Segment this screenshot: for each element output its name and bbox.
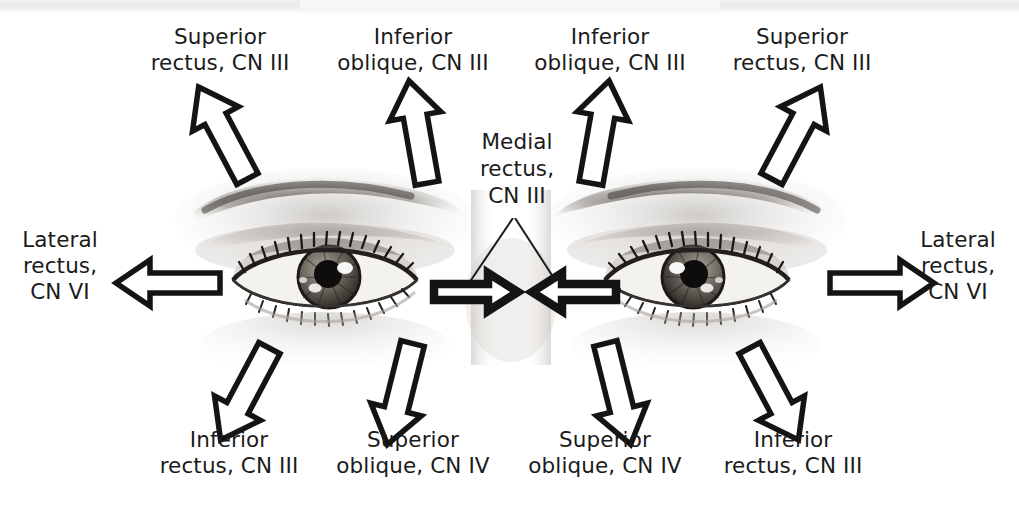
arrow-lateral-rectus-left bbox=[112, 255, 224, 311]
label-superior-oblique-right: Superior oblique, CN IV bbox=[495, 427, 715, 479]
label-lateral-rectus-right: Lateral rectus, CN VI bbox=[908, 227, 1008, 305]
label-superior-oblique-left: Superior oblique, CN IV bbox=[303, 427, 523, 479]
diagram-canvas: Superior rectus, CN III Inferior oblique… bbox=[0, 0, 1019, 511]
label-superior-rectus-right: Superior rectus, CN III bbox=[692, 24, 912, 76]
label-inferior-oblique-right: Inferior oblique, CN III bbox=[500, 24, 720, 76]
label-inferior-rectus-right: Inferior rectus, CN III bbox=[683, 427, 903, 479]
label-inferior-oblique-left: Inferior oblique, CN III bbox=[303, 24, 523, 76]
scan-artifact-band bbox=[0, 0, 1019, 13]
label-medial-rectus: Medial rectus, CN III bbox=[442, 128, 592, 209]
arrow-medial-rectus-left bbox=[430, 269, 522, 315]
arrow-medial-rectus-right bbox=[528, 269, 620, 315]
label-superior-rectus-left: Superior rectus, CN III bbox=[110, 24, 330, 76]
label-lateral-rectus-left: Lateral rectus, CN VI bbox=[10, 227, 110, 305]
